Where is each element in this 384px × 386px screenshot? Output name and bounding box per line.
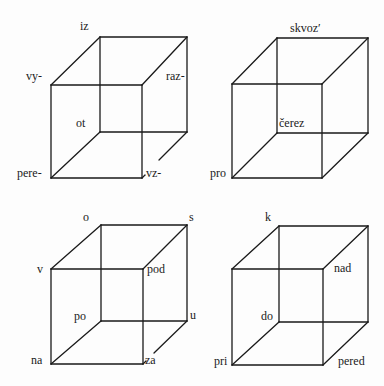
cube-label: v [37, 263, 43, 275]
receding-top-left-edge [51, 37, 100, 85]
cube-label: pere- [17, 167, 42, 179]
prefix-cube-diagram: izvy-raz-otpere-vz-skvoz′čerezproosvpodp… [0, 0, 384, 386]
cube-label: nad [334, 262, 351, 274]
cube-label: vz- [146, 167, 161, 179]
cube-label: skvoz′ [290, 22, 321, 34]
cube-label: do [261, 310, 273, 322]
cube-label: pro [210, 167, 226, 179]
receding-top-right-edge [322, 38, 368, 84]
cube-label: po [74, 310, 86, 322]
cube-label: pri [214, 355, 227, 367]
cube-drawings [0, 0, 384, 386]
receding-bottom-left-edge [51, 321, 101, 364]
cube-label: o [83, 211, 89, 223]
receding-bottom-left-edge [51, 132, 100, 178]
receding-bottom-right-edge [322, 133, 368, 178]
receding-bottom-left-edge [232, 322, 279, 365]
cube-label: raz- [166, 70, 185, 82]
cube-label: pod [147, 263, 165, 275]
cube-label: vy- [26, 70, 42, 82]
cube-label: s [189, 211, 194, 223]
receding-bottom-left-edge [232, 133, 277, 178]
cube-3 [51, 225, 187, 364]
cube-label: u [190, 309, 196, 321]
receding-top-left-edge [232, 226, 279, 269]
cube-4 [232, 226, 368, 365]
cube-label: iz [80, 20, 89, 32]
cube-label: pered [338, 355, 365, 367]
receding-bottom-right-edge [154, 321, 187, 353]
cube-label: k [265, 211, 271, 223]
cube-label: na [31, 354, 42, 366]
receding-top-left-edge [232, 38, 277, 84]
receding-top-left-edge [51, 225, 101, 269]
cube-label: čerez [279, 117, 304, 129]
receding-bottom-right-edge [159, 132, 187, 160]
cube-label: za [145, 354, 156, 366]
cube-label: ot [76, 117, 85, 129]
cube-1 [51, 37, 187, 178]
cube-2 [232, 38, 368, 178]
